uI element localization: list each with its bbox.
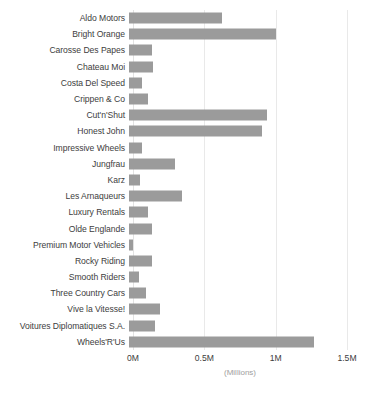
category-label: Jungfrau (0, 159, 129, 169)
bar[interactable] (129, 126, 262, 137)
x-axis-title: (Millions) (133, 367, 347, 378)
bar-row: Vive la Vitesse! (0, 301, 372, 317)
bar[interactable] (129, 29, 276, 40)
category-label: Costa Del Speed (0, 78, 129, 88)
bar[interactable] (129, 142, 142, 153)
bar-track (129, 140, 372, 156)
bar[interactable] (129, 45, 152, 56)
category-label: Voitures Diplomatiques S.A. (0, 321, 129, 331)
bar-row: Rocky Riding (0, 253, 372, 269)
bar-row: Aldo Motors (0, 10, 372, 26)
bar-track (129, 204, 372, 220)
category-label: Vive la Vitesse! (0, 304, 129, 314)
bar-track (129, 59, 372, 75)
bar-track (129, 26, 372, 42)
category-label: Impressive Wheels (0, 143, 129, 153)
bar-track (129, 107, 372, 123)
bar-row: Luxury Rentals (0, 204, 372, 220)
bar-track (129, 123, 372, 139)
category-label: Bright Orange (0, 29, 129, 39)
bar-row: Olde Englande (0, 220, 372, 236)
category-label: Wheels'R'Us (0, 337, 129, 347)
bar-track (129, 318, 372, 334)
bar-track (129, 42, 372, 58)
category-label: Luxury Rentals (0, 207, 129, 217)
bar-row: Premium Motor Vehicles (0, 237, 372, 253)
bar-track (129, 237, 372, 253)
bar-row: Carosse Des Papes (0, 42, 372, 58)
bar-row: Cut'n'Shut (0, 107, 372, 123)
category-label: Rocky Riding (0, 256, 129, 266)
category-label: Cut'n'Shut (0, 110, 129, 120)
bar-row: Wheels'R'Us (0, 334, 372, 350)
bar[interactable] (129, 191, 182, 202)
category-label: Premium Motor Vehicles (0, 240, 129, 250)
bar-track (129, 188, 372, 204)
bar-row: Jungfrau (0, 156, 372, 172)
x-axis: 0M0.5M1M1.5M (133, 352, 347, 366)
category-label: Les Arnaqueurs (0, 191, 129, 201)
bar[interactable] (129, 77, 142, 88)
bar[interactable] (129, 174, 140, 185)
x-tick-label: 1M (270, 352, 282, 364)
bar-track (129, 220, 372, 236)
bar-chart: Aldo MotorsBright OrangeCarosse Des Pape… (0, 0, 372, 394)
x-tick-label: 1.5M (337, 352, 356, 364)
bar-track (129, 253, 372, 269)
bar-row: Les Arnaqueurs (0, 188, 372, 204)
bar-row: Voitures Diplomatiques S.A. (0, 318, 372, 334)
bar[interactable] (129, 207, 148, 218)
bar-track (129, 269, 372, 285)
bar-row: Honest John (0, 123, 372, 139)
bar-track (129, 334, 372, 350)
category-label: Three Country Cars (0, 288, 129, 298)
bar[interactable] (129, 272, 139, 283)
x-tick-label: 0M (127, 352, 139, 364)
category-label: Aldo Motors (0, 13, 129, 23)
bar-track (129, 301, 372, 317)
bar[interactable] (129, 255, 152, 266)
bar[interactable] (129, 61, 153, 72)
category-label: Chateau Moi (0, 62, 129, 72)
bar[interactable] (129, 239, 133, 250)
category-label: Honest John (0, 126, 129, 136)
bar[interactable] (129, 288, 146, 299)
bar-track (129, 91, 372, 107)
bar-track (129, 156, 372, 172)
bar-row: Crippen & Co (0, 91, 372, 107)
category-label: Crippen & Co (0, 94, 129, 104)
bar-track (129, 10, 372, 26)
bar-track (129, 75, 372, 91)
bar-row: Costa Del Speed (0, 75, 372, 91)
category-label: Carosse Des Papes (0, 45, 129, 55)
x-tick-label: 0.5M (195, 352, 214, 364)
bar[interactable] (129, 13, 222, 24)
bar[interactable] (129, 223, 152, 234)
bar[interactable] (129, 158, 175, 169)
bar-row: Bright Orange (0, 26, 372, 42)
bar-row: Karz (0, 172, 372, 188)
bar[interactable] (129, 336, 314, 347)
bar[interactable] (129, 320, 155, 331)
bar-row: Chateau Moi (0, 59, 372, 75)
bar-row: Three Country Cars (0, 285, 372, 301)
bar-row: Impressive Wheels (0, 140, 372, 156)
bar-track (129, 285, 372, 301)
category-label: Karz (0, 175, 129, 185)
category-label: Olde Englande (0, 224, 129, 234)
bar-rows: Aldo MotorsBright OrangeCarosse Des Pape… (0, 10, 372, 350)
bar-track (129, 172, 372, 188)
bar[interactable] (129, 304, 160, 315)
plot-area: Aldo MotorsBright OrangeCarosse Des Pape… (0, 0, 372, 394)
bar-row: Smooth Riders (0, 269, 372, 285)
category-label: Smooth Riders (0, 272, 129, 282)
bar[interactable] (129, 94, 148, 105)
bar[interactable] (129, 110, 267, 121)
